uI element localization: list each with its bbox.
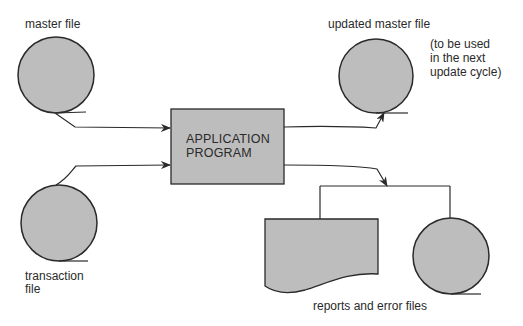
updated-master-note-line3: update cycle) bbox=[430, 66, 501, 79]
master-file-node bbox=[18, 37, 94, 113]
outputs-bracket bbox=[320, 186, 450, 219]
edge-program-to-updated-master bbox=[284, 113, 384, 128]
updated-master-note-line1: (to be used bbox=[430, 38, 490, 51]
transaction-file-label-line2: file bbox=[25, 283, 40, 296]
updated-master-file-label: updated master file bbox=[328, 18, 430, 31]
master-file-label: master file bbox=[25, 18, 80, 31]
application-program-label-line1: APPLICATION bbox=[186, 132, 270, 147]
application-program-label-line2: PROGRAM bbox=[186, 146, 252, 161]
updated-master-note-line2: in the next bbox=[430, 52, 485, 65]
report-document-node bbox=[265, 219, 378, 292]
edge-program-to-outputs bbox=[284, 165, 387, 186]
edge-master-to-program bbox=[55, 113, 170, 128]
error-file-node bbox=[413, 218, 489, 294]
updated-master-file-node bbox=[339, 39, 413, 113]
outputs-label: reports and error files bbox=[313, 300, 427, 313]
edge-transaction-to-program bbox=[56, 165, 170, 185]
transaction-file-node bbox=[21, 185, 97, 261]
